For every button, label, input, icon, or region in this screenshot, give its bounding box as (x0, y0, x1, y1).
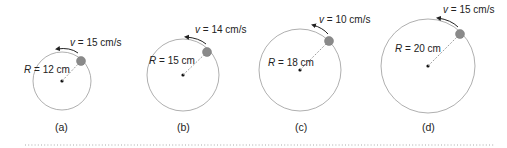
speed-label: v = 10 cm/s (319, 14, 370, 25)
panel-caption: (d) (422, 121, 435, 133)
ball (77, 57, 86, 66)
ball (203, 48, 212, 57)
panel-caption: (c) (295, 121, 307, 133)
speed-label: v = 15 cm/s (70, 37, 121, 48)
speed-label: v = 15 cm/s (443, 4, 494, 15)
panel-caption: (b) (177, 121, 190, 133)
speed-label: v = 14 cm/s (195, 24, 246, 35)
radius-label: R = 18 cm (268, 57, 314, 68)
diagram-canvas: v = 15 cm/s R = 12 cm (a) v = 14 cm/s R … (0, 0, 507, 148)
panel-d: v = 15 cm/s R = 20 cm (d) (381, 4, 494, 133)
panel-a: v = 15 cm/s R = 12 cm (a) (24, 37, 121, 133)
panel-c: v = 10 cm/s R = 18 cm (c) (259, 14, 370, 133)
velocity-arrow-icon (438, 18, 458, 27)
radius-label: R = 20 cm (395, 43, 441, 54)
velocity-arrow-icon (186, 37, 206, 44)
velocity-arrow-icon (313, 25, 328, 34)
ball (456, 30, 465, 39)
radius-label: R = 15 cm (149, 55, 195, 66)
panel-caption: (a) (55, 121, 68, 133)
panel-b: v = 14 cm/s R = 15 cm (b) (147, 24, 246, 133)
radius-label: R = 12 cm (24, 64, 70, 75)
ball (325, 37, 334, 46)
